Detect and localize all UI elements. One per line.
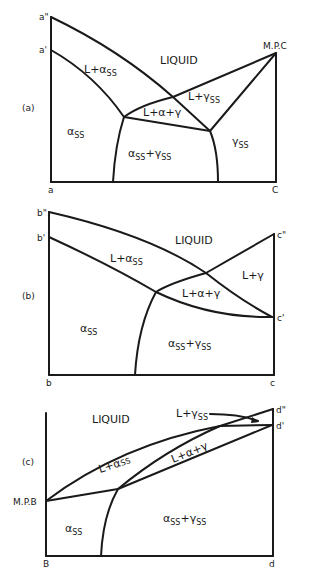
region-alpha-gamma: αSS+γSS bbox=[168, 337, 211, 352]
diagram-b: b" b' c" c' b c (b) LIQUID L+αSS L+γ L+α… bbox=[22, 208, 286, 388]
region-l-gamma: L+γ bbox=[242, 269, 264, 282]
label-c: c bbox=[270, 378, 275, 388]
l-alpha-gamma-upper bbox=[118, 426, 220, 489]
region-l-gamma: L+γSS bbox=[176, 407, 208, 422]
liquidus-gamma bbox=[156, 234, 274, 292]
solidus-alpha bbox=[51, 50, 124, 117]
solvus-alpha bbox=[113, 117, 124, 182]
label-d: d bbox=[269, 559, 275, 569]
region-l-gamma: L+γSS bbox=[188, 90, 220, 105]
region-liquid: LIQUID bbox=[92, 413, 130, 426]
region-liquid: LIQUID bbox=[175, 234, 213, 247]
solidus-alpha bbox=[46, 489, 118, 501]
diagram-a: a" a' M.P.C a C (a) LIQUID L+αSS L+γSS L… bbox=[22, 12, 287, 195]
region-l-alpha-gamma: L+α+γ bbox=[143, 106, 182, 119]
label-mpc: M.P.C bbox=[263, 41, 287, 51]
label-d-prime: d' bbox=[276, 421, 284, 431]
label-b-prime: b' bbox=[37, 233, 45, 243]
label-a: a bbox=[48, 185, 54, 195]
label-c: C bbox=[272, 185, 278, 195]
diagram-c: d" d' M.P.B B d (c) LIQUID L+γSS L+αSS L… bbox=[13, 405, 286, 569]
region-alpha: αSS bbox=[67, 125, 84, 140]
phase-diagrams: a" a' M.P.C a C (a) LIQUID L+αSS L+γSS L… bbox=[0, 0, 309, 586]
liquidus-alpha bbox=[51, 17, 210, 131]
region-l-alpha: L+αSS bbox=[110, 252, 143, 267]
region-l-alpha: L+αSS bbox=[84, 63, 117, 78]
region-l-alpha-gamma: L+α+γ bbox=[169, 439, 210, 466]
region-alpha-gamma: αSS+γSS bbox=[128, 147, 171, 162]
label-mpb: M.P.B bbox=[13, 497, 37, 507]
label-b: b bbox=[46, 378, 52, 388]
solvus-alpha bbox=[101, 489, 118, 556]
label-a-prime: a' bbox=[39, 45, 47, 55]
label-d-double-prime: d" bbox=[276, 405, 286, 415]
solvus-gamma bbox=[210, 131, 218, 182]
region-alpha-gamma: αSS+γSS bbox=[163, 512, 206, 527]
label-c-double-prime: c" bbox=[277, 230, 286, 240]
panel-label-b: (b) bbox=[22, 291, 35, 301]
region-gamma: γSS bbox=[232, 135, 249, 150]
panel-label-c: (c) bbox=[22, 457, 34, 467]
region-l-alpha-gamma: L+α+γ bbox=[182, 287, 221, 300]
label-c-prime: c' bbox=[277, 313, 284, 323]
solvus-alpha bbox=[135, 292, 156, 375]
label-b-double-prime: b" bbox=[37, 208, 47, 218]
pointer-arrow bbox=[210, 414, 258, 421]
liquidus-alpha bbox=[49, 212, 272, 317]
region-l-alpha: L+αSS bbox=[97, 453, 132, 475]
solidus-gamma bbox=[210, 53, 276, 131]
liquidus-alpha bbox=[46, 425, 272, 501]
region-alpha: αSS bbox=[80, 322, 97, 337]
region-liquid: LIQUID bbox=[160, 54, 198, 67]
label-a-double-prime: a" bbox=[39, 12, 49, 22]
label-b: B bbox=[43, 559, 49, 569]
panel-label-a: (a) bbox=[22, 103, 35, 113]
region-alpha: αSS bbox=[65, 522, 82, 537]
